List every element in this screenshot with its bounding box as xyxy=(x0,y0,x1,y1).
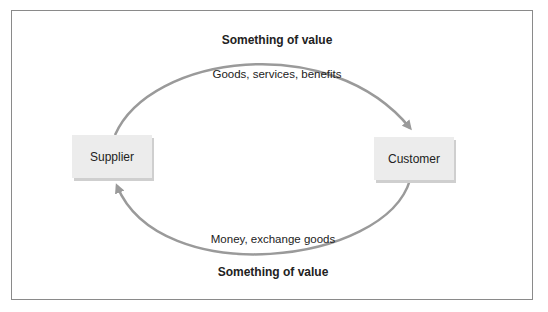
bottom-flow-heading: Something of value xyxy=(218,265,329,279)
customer-label: Customer xyxy=(388,152,440,166)
top-flow-label: Goods, services, benefits xyxy=(212,68,341,80)
customer-node: Customer xyxy=(374,137,454,180)
top-flow-heading: Something of value xyxy=(222,33,333,47)
bottom-flow-label: Money, exchange goods xyxy=(211,233,335,245)
supplier-label: Supplier xyxy=(90,150,134,164)
supplier-node: Supplier xyxy=(72,135,152,178)
